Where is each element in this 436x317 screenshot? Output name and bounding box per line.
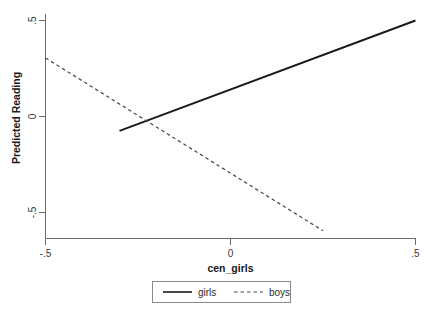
x-tick-label-center: 0 xyxy=(228,248,234,259)
chart-legend: girls boys xyxy=(153,282,291,303)
chart-canvas: .5 0 -.5 Predicted Reading -.5 0 .5 cen_… xyxy=(0,0,436,317)
legend-label-girls: girls xyxy=(198,287,216,298)
chart-figure: .5 0 -.5 Predicted Reading -.5 0 .5 cen_… xyxy=(0,0,436,317)
y-tick-label-upper: .5 xyxy=(27,16,38,25)
x-tick-label-right: .5 xyxy=(411,248,420,259)
x-tick-label-left: -.5 xyxy=(40,248,52,259)
y-tick-label-middle: 0 xyxy=(27,113,38,119)
y-tick-label-lower: -.5 xyxy=(27,206,38,218)
y-axis-title: Predicted Reading xyxy=(10,72,22,164)
x-axis-title: cen_girls xyxy=(207,262,253,274)
legend-label-boys: boys xyxy=(269,287,290,298)
